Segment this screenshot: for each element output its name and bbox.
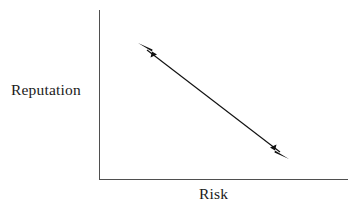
x-axis-label: Risk (199, 186, 228, 202)
chart-canvas: Reputation Risk (0, 0, 361, 215)
y-axis-label: Reputation (11, 82, 81, 98)
trend-arrow-shaft (147, 50, 280, 152)
risk-reputation-diagram (0, 0, 361, 215)
